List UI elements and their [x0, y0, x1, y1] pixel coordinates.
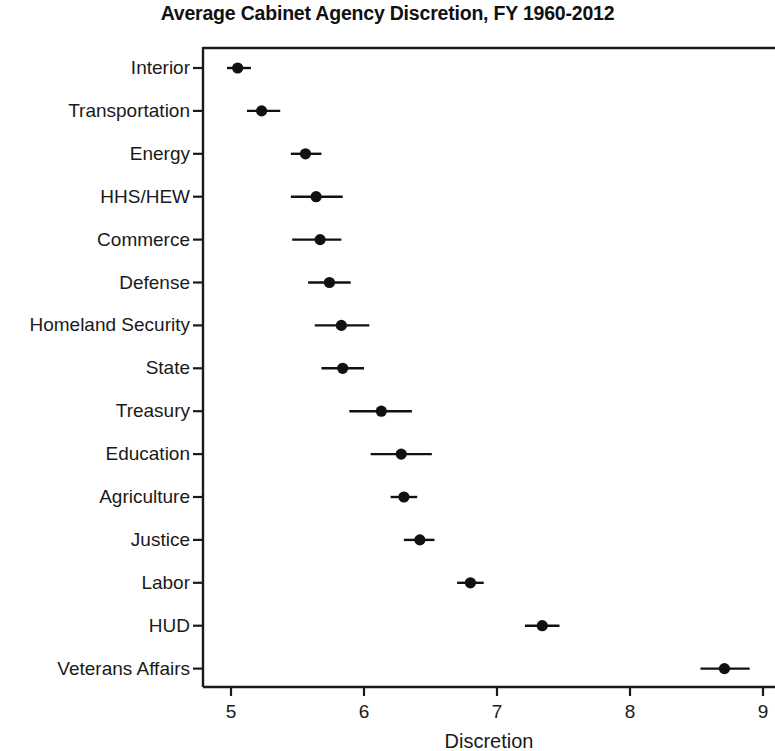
x-axis-tick-label: 6 [344, 702, 384, 721]
y-axis-label: Commerce [0, 230, 190, 249]
data-point-group [404, 534, 435, 545]
data-point-marker [315, 234, 326, 245]
data-series [227, 62, 750, 674]
data-point-group [391, 491, 418, 502]
x-axis-title: Discretion [203, 730, 775, 751]
data-point-group [315, 320, 370, 331]
data-point-group [525, 620, 560, 631]
y-axis-label: Energy [0, 144, 190, 163]
y-axis-label: Transportation [0, 101, 190, 120]
y-axis-label: Homeland Security [0, 315, 190, 334]
data-point-marker [719, 663, 730, 674]
y-axis-label: Justice [0, 530, 190, 549]
x-axis-tick-label: 9 [743, 702, 775, 721]
data-point-marker [337, 363, 348, 374]
data-point-marker [232, 62, 243, 73]
y-axis-label: Agriculture [0, 487, 190, 506]
data-point-group [321, 363, 364, 374]
data-point-group [308, 277, 351, 288]
y-axis-label: Interior [0, 58, 190, 77]
y-axis-label: HHS/HEW [0, 187, 190, 206]
axes [193, 47, 775, 696]
x-axis-tick-label: 8 [610, 702, 650, 721]
data-point-group [457, 577, 484, 588]
y-axis-label: Education [0, 444, 190, 463]
data-point-group [349, 406, 412, 417]
data-point-marker [300, 148, 311, 159]
data-point-marker [414, 534, 425, 545]
chart-figure: Average Cabinet Agency Discretion, FY 19… [0, 0, 775, 751]
data-point-marker [376, 406, 387, 417]
y-axis-label: State [0, 358, 190, 377]
data-point-group [247, 105, 280, 116]
x-axis-tick-label: 5 [211, 702, 251, 721]
data-point-group [291, 148, 322, 159]
data-point-marker [336, 320, 347, 331]
data-point-group [292, 234, 341, 245]
data-point-group [371, 449, 432, 460]
y-axis-label: Veterans Affairs [0, 659, 190, 678]
y-axis-label: Treasury [0, 401, 190, 420]
y-axis-label: Defense [0, 273, 190, 292]
data-point-marker [256, 105, 267, 116]
y-axis-label: Labor [0, 573, 190, 592]
data-point-group [227, 62, 251, 73]
data-point-marker [396, 449, 407, 460]
data-point-marker [311, 191, 322, 202]
data-point-marker [324, 277, 335, 288]
data-point-marker [398, 491, 409, 502]
data-point-marker [465, 577, 476, 588]
data-point-marker [537, 620, 548, 631]
data-point-group [291, 191, 343, 202]
y-axis-label: HUD [0, 616, 190, 635]
x-axis-tick-label: 7 [477, 702, 517, 721]
data-point-group [700, 663, 749, 674]
